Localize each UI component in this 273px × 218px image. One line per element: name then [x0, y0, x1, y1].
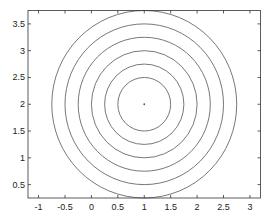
x-tick-label: 2.5	[217, 202, 230, 212]
y-tick-label: 3	[20, 46, 25, 56]
y-tick-label: 1.5	[12, 126, 25, 136]
y-tick-label: 2.5	[12, 72, 25, 82]
y-tick-label: 3.5	[12, 19, 25, 29]
concentric-circles-chart: -1-0.500.511.522.53 0.511.522.533.5	[0, 0, 273, 218]
x-tick-label: 1.5	[164, 202, 177, 212]
x-tick-label: 0	[89, 202, 94, 212]
y-tick-label: 2	[20, 99, 25, 109]
plot-marks	[52, 11, 237, 199]
x-tick-label: 0.5	[112, 202, 125, 212]
x-tick-label: 2	[195, 202, 200, 212]
x-tick-labels: -1-0.500.511.522.53	[35, 202, 253, 212]
x-tick-label: -1	[35, 202, 43, 212]
x-tick-label: -0.5	[57, 202, 73, 212]
x-tick-label: 1	[142, 202, 147, 212]
x-tick-label: 3	[247, 202, 252, 212]
center-point	[143, 103, 145, 105]
y-tick-label: 1	[20, 153, 25, 163]
y-tick-label: 0.5	[12, 180, 25, 190]
y-tick-labels: 0.511.522.533.5	[12, 19, 25, 190]
